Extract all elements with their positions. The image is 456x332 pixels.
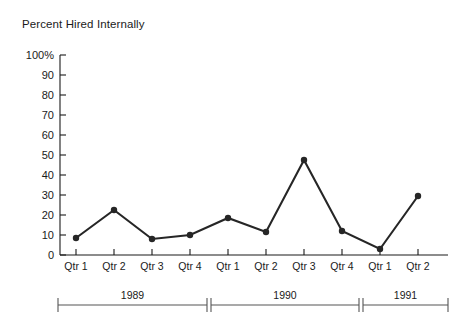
data-point-marker: Qtr 3: 8% — [149, 236, 155, 242]
x-axis: Qtr 1Qtr 2Qtr 3Qtr 4Qtr 1Qtr 2Qtr 3Qtr 4… — [60, 249, 448, 272]
y-axis-tick-label: 40 — [42, 169, 54, 181]
data-point-marker: Qtr 1: 3% — [377, 246, 383, 252]
chart-container: Percent Hired Internally 100%90807060504… — [0, 0, 456, 332]
y-axis-tick-label: 70 — [42, 109, 54, 121]
data-point-marker: Qtr 4: 10% — [187, 232, 193, 238]
y-axis-tick-label: 50 — [42, 149, 54, 161]
y-axis-tick-label: 80 — [42, 89, 54, 101]
x-axis-tick-label: Qtr 2 — [406, 260, 429, 272]
x-axis-tick-label: Qtr 4 — [330, 260, 353, 272]
y-axis-tick-label: 0 — [48, 249, 54, 261]
data-point-marker: Qtr 2: 22.5% — [111, 207, 117, 213]
data-series-percent-hired-internally: Qtr 1: 8.5%Qtr 2: 22.5%Qtr 3: 8%Qtr 4: 1… — [73, 157, 421, 252]
year-bracket-axis: 198919901991 — [58, 289, 448, 312]
data-point-marker: Qtr 2: 29.5% — [415, 193, 421, 199]
data-point-marker: Qtr 1: 18.5% — [225, 215, 231, 221]
x-axis-tick-label: Qtr 3 — [292, 260, 315, 272]
data-point-marker: Qtr 2: 11.5% — [263, 229, 269, 235]
y-axis-tick-label: 30 — [42, 189, 54, 201]
x-axis-tick-label: Qtr 2 — [254, 260, 277, 272]
x-axis-tick-label: Qtr 1 — [368, 260, 391, 272]
data-point-marker: Qtr 1: 8.5% — [73, 235, 79, 241]
y-axis: 100%9080706050403020100 — [26, 49, 66, 261]
y-axis-tick-label: 60 — [42, 129, 54, 141]
y-axis-tick-label: 20 — [42, 209, 54, 221]
series-polyline — [76, 160, 418, 249]
line-chart-plot: 100%9080706050403020100 Qtr 1Qtr 2Qtr 3Q… — [0, 0, 456, 332]
y-axis-tick-label: 100% — [26, 49, 54, 61]
y-axis-tick-label: 10 — [42, 229, 54, 241]
x-axis-tick-label: Qtr 1 — [64, 260, 87, 272]
x-axis-tick-label: Qtr 3 — [140, 260, 163, 272]
year-bracket-label: 1990 — [273, 289, 297, 301]
data-point-marker: Qtr 3: 47.5% — [301, 157, 307, 163]
year-bracket-label: 1991 — [394, 289, 418, 301]
y-axis-tick-label: 90 — [42, 69, 54, 81]
x-axis-tick-label: Qtr 4 — [178, 260, 201, 272]
data-point-marker: Qtr 4: 12% — [339, 228, 345, 234]
x-axis-tick-label: Qtr 1 — [216, 260, 239, 272]
x-axis-tick-label: Qtr 2 — [102, 260, 125, 272]
year-bracket-label: 1989 — [121, 289, 145, 301]
